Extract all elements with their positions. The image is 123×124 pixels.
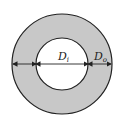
annulus-diagram: Di Do bbox=[0, 0, 123, 124]
